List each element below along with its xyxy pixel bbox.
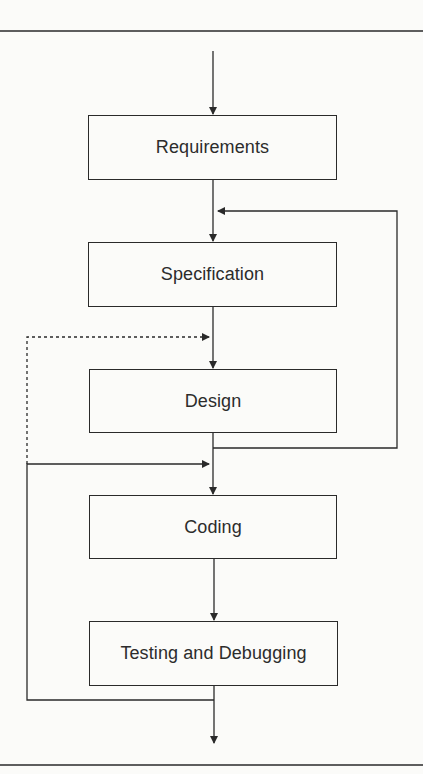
stage-label: Testing and Debugging: [120, 643, 306, 664]
stage-requirements: Requirements: [88, 115, 337, 180]
stage-testing-and-debugging: Testing and Debugging: [89, 621, 338, 686]
stage-label: Coding: [184, 517, 242, 538]
stage-label: Requirements: [156, 137, 269, 158]
stage-label: Design: [185, 391, 242, 412]
stage-label: Specification: [161, 264, 264, 285]
stage-coding: Coding: [89, 495, 337, 559]
stage-specification: Specification: [88, 242, 337, 307]
stage-design: Design: [89, 369, 337, 433]
